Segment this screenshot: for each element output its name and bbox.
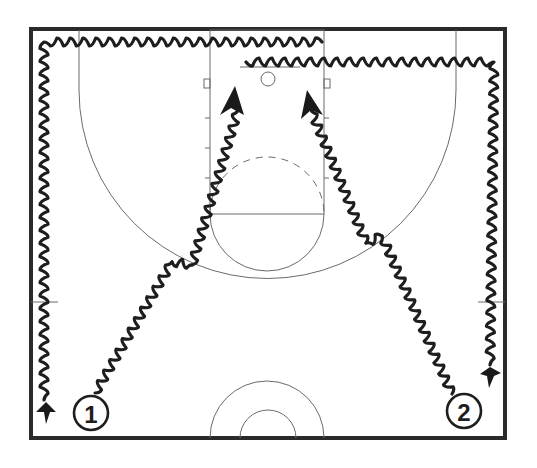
arrowheads bbox=[36, 86, 501, 424]
player-1-drive-to-basket bbox=[191, 110, 238, 265]
dribble-paths bbox=[40, 38, 498, 400]
player-2-drive-to-basket bbox=[311, 110, 368, 243]
player-1-drive-to-elbow bbox=[95, 262, 172, 393]
player-2: 2 bbox=[447, 394, 481, 428]
center-circle-inner bbox=[240, 410, 296, 438]
block-left bbox=[204, 79, 210, 88]
arrow-up-left-icon bbox=[220, 86, 244, 115]
free-throw-circle-top bbox=[210, 157, 324, 214]
player-2-label: 2 bbox=[457, 399, 470, 426]
player-2-baseline-dribble bbox=[246, 58, 498, 365]
block-right bbox=[324, 79, 330, 88]
arrow-down-left-icon bbox=[36, 402, 56, 424]
court-svg: 1 2 bbox=[0, 0, 537, 468]
center-circle-outer bbox=[210, 381, 324, 438]
court-border bbox=[31, 29, 505, 438]
court bbox=[31, 29, 505, 438]
player-1: 1 bbox=[74, 396, 108, 430]
player-1-baseline-dribble bbox=[40, 38, 322, 400]
paint-lane bbox=[210, 30, 324, 214]
player-2-drive-to-elbow bbox=[381, 236, 454, 394]
player-1-label: 1 bbox=[84, 401, 97, 428]
arrow-down-right-icon bbox=[480, 367, 501, 388]
rim bbox=[261, 72, 275, 86]
drill-diagram: 1 2 bbox=[0, 0, 537, 468]
arrow-up-right-icon bbox=[301, 90, 323, 119]
free-throw-circle-bottom bbox=[210, 214, 324, 271]
player-1-crossover bbox=[172, 259, 192, 268]
